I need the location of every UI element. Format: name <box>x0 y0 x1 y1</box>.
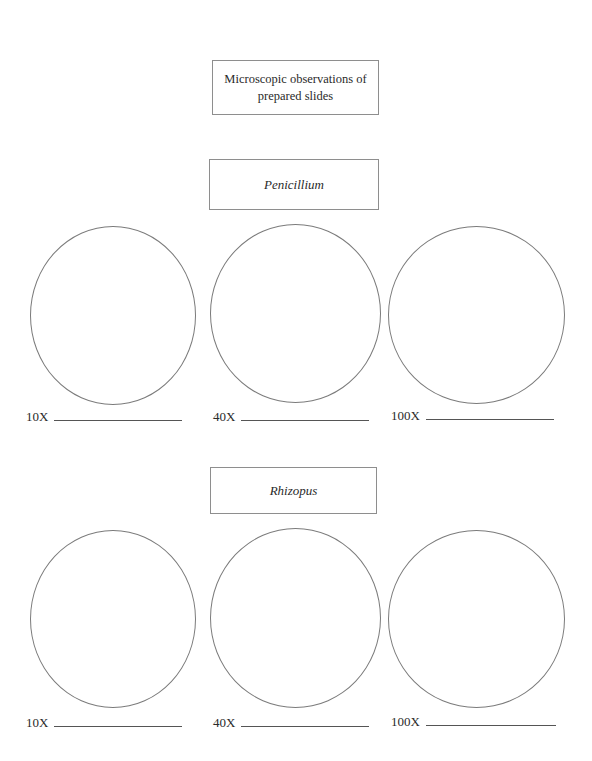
magnification-label-rhizopus-10x: 10X <box>26 715 182 731</box>
magnification-label-rhizopus-100x: 100X <box>391 714 556 730</box>
magnification-text: 10X <box>26 409 48 425</box>
magnification-text: 40X <box>213 409 235 425</box>
observation-circle-penicillium-10x[interactable] <box>30 226 196 405</box>
worksheet-title-text: Microscopic observations of prepared sli… <box>213 71 378 105</box>
answer-line-penicillium-10x[interactable] <box>54 420 182 421</box>
magnification-label-rhizopus-40x: 40X <box>213 715 369 731</box>
magnification-label-penicillium-10x: 10X <box>26 409 182 425</box>
section-title-text: Penicillium <box>264 176 324 194</box>
answer-line-penicillium-100x[interactable] <box>426 419 554 420</box>
answer-line-penicillium-40x[interactable] <box>241 420 369 421</box>
magnification-text: 100X <box>391 408 420 424</box>
observation-circle-rhizopus-10x[interactable] <box>30 530 196 708</box>
observation-circle-rhizopus-40x[interactable] <box>210 528 381 708</box>
answer-line-rhizopus-40x[interactable] <box>241 726 369 727</box>
section-title-text: Rhizopus <box>270 482 318 500</box>
answer-line-rhizopus-10x[interactable] <box>54 726 182 727</box>
observation-circle-penicillium-40x[interactable] <box>210 224 381 403</box>
magnification-label-penicillium-40x: 40X <box>213 409 369 425</box>
worksheet-title-box: Microscopic observations of prepared sli… <box>212 60 379 115</box>
magnification-label-penicillium-100x: 100X <box>391 408 554 424</box>
answer-line-rhizopus-100x[interactable] <box>426 725 556 726</box>
magnification-text: 100X <box>391 714 420 730</box>
observation-circle-penicillium-100x[interactable] <box>388 226 565 404</box>
magnification-text: 40X <box>213 715 235 731</box>
worksheet-page: Microscopic observations of prepared sli… <box>0 0 592 761</box>
observation-circle-rhizopus-100x[interactable] <box>388 530 565 708</box>
magnification-text: 10X <box>26 715 48 731</box>
section-header-penicillium: Penicillium <box>209 159 379 210</box>
section-header-rhizopus: Rhizopus <box>210 467 377 514</box>
